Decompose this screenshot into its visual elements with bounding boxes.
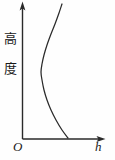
origin-label: O [13,140,22,154]
x-axis-label: h [95,140,102,154]
y-axis-label-char-top: 高 [2,31,18,46]
y-axis-label: 高 度 [2,1,18,91]
y-axis-label-char-bottom: 度 [2,61,18,76]
figure-container: 高 度 O h [0,0,115,160]
